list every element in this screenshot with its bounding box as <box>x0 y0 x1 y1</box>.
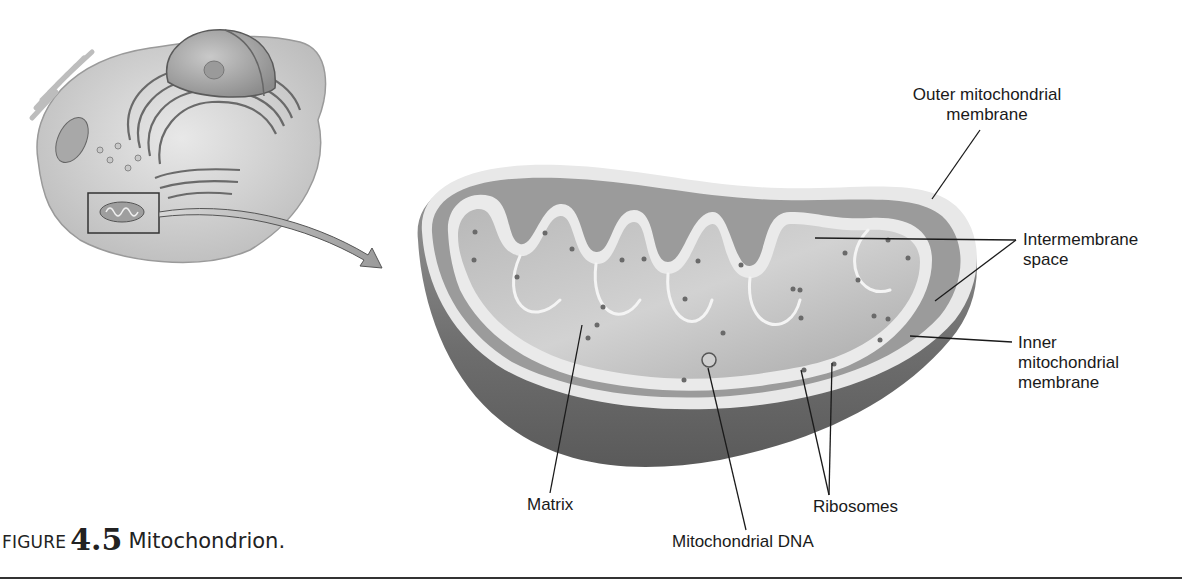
mitochondrion-cutaway <box>418 165 977 467</box>
label-mitochondrial-dna: Mitochondrial DNA <box>672 532 814 552</box>
label-matrix: Matrix <box>527 495 573 515</box>
label-ribosomes: Ribosomes <box>813 497 898 517</box>
caption-prefix: FIGURE <box>2 532 66 552</box>
caption-number: 4.5 <box>70 522 122 557</box>
label-outer-membrane: Outer mitochondrial membrane <box>892 85 1082 125</box>
figure-caption: FIGURE4.5Mitochondrion. <box>2 520 285 555</box>
label-inner-membrane: Inner mitochondrial membrane <box>1018 333 1119 393</box>
caption-title: Mitochondrion. <box>128 529 285 553</box>
bottom-rule <box>0 577 1182 579</box>
cell-illustration <box>32 30 325 262</box>
label-intermembrane-space: Intermembrane space <box>1023 230 1138 270</box>
